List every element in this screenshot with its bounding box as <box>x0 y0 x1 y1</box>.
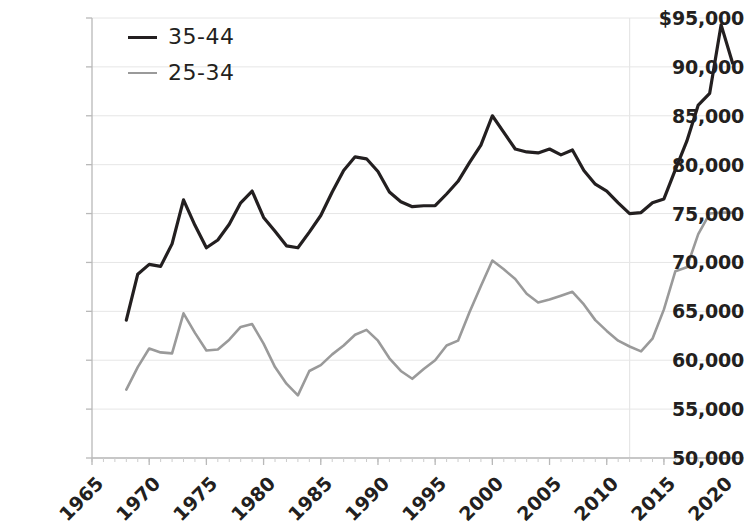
legend-item-1[interactable]: 25-34 <box>128 60 234 86</box>
legend-swatch-25-34 <box>128 72 157 74</box>
y-tick-label-75000: 75,000 <box>658 203 744 225</box>
legend-item-0[interactable]: 35-44 <box>128 24 234 50</box>
y-tick-label-95000: $95,000 <box>658 7 744 29</box>
x-axis-major-ticks <box>92 458 721 465</box>
y-tick-label-80000: 80,000 <box>658 154 744 176</box>
legend-label-35-44: 35-44 <box>168 26 234 48</box>
y-tick-label-90000: 90,000 <box>658 56 744 78</box>
legend-swatch-35-44 <box>128 36 157 39</box>
y-axis-ticks <box>86 18 92 458</box>
legend-label-25-34: 25-34 <box>168 62 234 84</box>
y-tick-label-70000: 70,000 <box>658 251 744 273</box>
y-tick-label-65000: 65,000 <box>658 300 744 322</box>
y-tick-label-55000: 55,000 <box>658 398 744 420</box>
y-tick-label-50000: 50,000 <box>658 447 744 469</box>
y-tick-label-85000: 85,000 <box>658 105 744 127</box>
y-tick-label-60000: 60,000 <box>658 349 744 371</box>
chart-legend: 35-44 25-34 <box>128 24 234 86</box>
